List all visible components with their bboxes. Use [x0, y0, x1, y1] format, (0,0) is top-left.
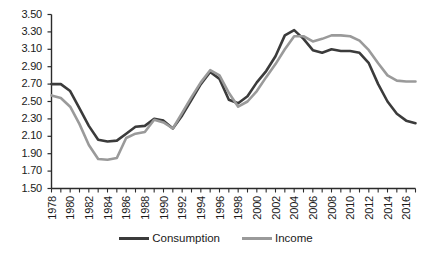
- x-tick-label: 1990: [158, 196, 170, 220]
- x-tick-label: 1996: [214, 196, 226, 220]
- legend-label: Income: [275, 232, 313, 244]
- legend-swatch-icon: [119, 237, 149, 240]
- legend-label: Consumption: [152, 232, 220, 244]
- x-tick-label: 2004: [288, 196, 300, 220]
- y-tick-label: 3.10: [6, 42, 42, 54]
- x-tick-label: 1980: [64, 196, 76, 220]
- y-tick-label: 2.30: [6, 112, 42, 124]
- line-chart: 1.501.701.902.102.302.502.702.903.103.30…: [0, 0, 432, 256]
- x-tick-label: 1988: [139, 196, 151, 220]
- legend-swatch-icon: [242, 237, 272, 240]
- x-tick-label: 2016: [400, 196, 412, 220]
- y-tick-label: 1.70: [6, 164, 42, 176]
- x-tick-label: 1978: [46, 196, 58, 220]
- legend-item-consumption[interactable]: Consumption: [119, 232, 220, 244]
- x-tick-label: 1994: [195, 196, 207, 220]
- x-tick-label: 2010: [344, 196, 356, 220]
- x-tick-label: 2006: [307, 196, 319, 220]
- x-tick-label: 2002: [270, 196, 282, 220]
- series-line-consumption: [52, 30, 416, 141]
- y-tick-label: 1.90: [6, 147, 42, 159]
- x-tick-label: 2008: [326, 196, 338, 220]
- x-tick-label: 1998: [232, 196, 244, 220]
- x-tick-label: 1992: [176, 196, 188, 220]
- y-tick-label: 2.50: [6, 95, 42, 107]
- data-series-group: [52, 30, 416, 160]
- x-tick-label: 1982: [83, 196, 95, 220]
- x-tick-label: 1984: [102, 196, 114, 220]
- y-tick-label: 2.70: [6, 77, 42, 89]
- y-tick-label: 1.50: [6, 182, 42, 194]
- y-tick-label: 2.10: [6, 129, 42, 141]
- chart-legend: ConsumptionIncome: [0, 232, 432, 244]
- x-tick-label: 2000: [251, 196, 263, 220]
- legend-item-income[interactable]: Income: [242, 232, 313, 244]
- x-tick-label: 2014: [382, 196, 394, 220]
- y-tick-label: 3.30: [6, 25, 42, 37]
- x-tick-label: 2012: [363, 196, 375, 220]
- y-tick-label: 3.50: [6, 8, 42, 20]
- x-tick-label: 1986: [120, 196, 132, 220]
- y-tick-label: 2.90: [6, 60, 42, 72]
